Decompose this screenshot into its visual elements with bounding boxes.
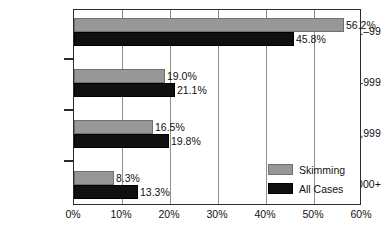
value-label-all-cases-1: 21.1%: [177, 83, 207, 97]
bar-skimming-3: [74, 171, 114, 185]
legend-item-skimming: Skimming: [268, 161, 354, 178]
chart-legend: Skimming All Cases: [268, 161, 354, 199]
legend-item-all-cases: All Cases: [268, 180, 354, 197]
bar-skimming-1: [74, 69, 165, 83]
x-axis-tick-label-3: 30%: [197, 208, 237, 220]
y-axis-tick-2: [64, 109, 73, 111]
x-axis-tick-label-6: 60%: [341, 208, 381, 220]
bar-all-cases-0: [74, 32, 294, 46]
bar-all-cases-3: [74, 185, 138, 199]
value-label-skimming-2: 16.5%: [155, 120, 185, 134]
value-label-skimming-0: 56.2%: [346, 18, 376, 32]
x-axis-tick-label-4: 40%: [245, 208, 285, 220]
x-axis-tick-label-0: 0%: [53, 208, 93, 220]
x-axis-tick-label-1: 10%: [101, 208, 141, 220]
bar-skimming-2: [74, 120, 153, 134]
bar-skimming-0: [74, 18, 344, 32]
value-label-all-cases-0: 45.8%: [296, 32, 326, 46]
bar-all-cases-2: [74, 134, 169, 148]
value-label-skimming-1: 19.0%: [167, 69, 197, 83]
bar-all-cases-1: [74, 83, 175, 97]
value-label-skimming-3: 8.3%: [116, 171, 140, 185]
legend-label-skimming: Skimming: [299, 164, 345, 176]
y-axis-tick-3: [64, 160, 73, 162]
value-label-all-cases-3: 13.3%: [140, 185, 170, 199]
legend-label-all-cases: All Cases: [299, 183, 343, 195]
bar-chart: 1–99 100–999 1,000–9,999 10,000+ 56.2% 4…: [0, 0, 381, 233]
x-axis-tick-label-2: 20%: [149, 208, 189, 220]
x-axis-tick-label-5: 50%: [293, 208, 333, 220]
y-axis-tick-1: [64, 58, 73, 60]
legend-swatch-all-cases-icon: [268, 183, 293, 194]
legend-swatch-skimming-icon: [268, 164, 293, 175]
value-label-all-cases-2: 19.8%: [171, 134, 201, 148]
